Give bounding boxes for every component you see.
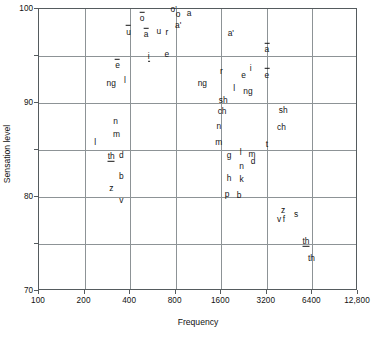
x-tick-label: 12,800 [344, 296, 370, 305]
data-point-label: v [277, 214, 281, 222]
data-point-label: th [108, 151, 115, 159]
x-tick-label: 1600 [211, 296, 230, 305]
x-tick-mark [220, 290, 221, 294]
y-tick-mark [34, 149, 38, 150]
data-point-label: a [144, 30, 149, 38]
data-point-label: d [119, 150, 124, 158]
x-tick-mark [175, 290, 176, 294]
data-point-label: e [115, 61, 120, 69]
data-point-label: s [294, 210, 298, 218]
data-point-label: a' [175, 21, 181, 29]
y-tick-mark [34, 8, 38, 9]
x-tick-label: 400 [122, 296, 136, 305]
data-point-label: n [113, 117, 118, 125]
y-tick-mark [34, 196, 38, 197]
data-point-label: m [113, 130, 120, 138]
y-tick-label: 70 [5, 286, 33, 295]
x-tick-mark [357, 290, 358, 294]
data-point-label: ng [243, 87, 252, 95]
x-gridline [176, 9, 177, 289]
data-point-label: l [94, 137, 96, 145]
data-point-label: l [233, 84, 235, 92]
y-gridline [39, 56, 356, 57]
data-point-label: n [216, 121, 221, 129]
x-tick-label: 3200 [257, 296, 276, 305]
data-point-label: e [165, 50, 170, 58]
data-point-label: d [251, 157, 256, 165]
data-point-label: l [124, 75, 126, 83]
data-point-label: ng [198, 79, 207, 87]
data-point-label: r [220, 67, 223, 75]
y-tick-mark [34, 55, 38, 56]
x-tick-label: 800 [168, 296, 182, 305]
data-point-label: b [237, 191, 242, 199]
y-gridline [39, 103, 356, 104]
y-axis-title: Sensation level [2, 119, 12, 189]
x-tick-label: 100 [31, 296, 45, 305]
x-tick-mark [38, 290, 39, 294]
data-point-label: l [240, 148, 242, 156]
data-point-label: sh [219, 96, 228, 104]
x-tick-mark [84, 290, 85, 294]
x-tick-mark [266, 290, 267, 294]
data-point-label: th [308, 254, 315, 262]
x-axis-title: Frequency [178, 317, 219, 327]
y-tick-label: 90 [5, 98, 33, 107]
data-point-label: ch [218, 107, 227, 115]
data-point-label: a [187, 9, 192, 17]
data-point-label: t [266, 140, 268, 148]
data-point-label: n [239, 162, 244, 170]
y-tick-label: 80 [5, 192, 33, 201]
y-gridline [39, 150, 356, 151]
y-gridline [39, 197, 356, 198]
x-gridline [85, 9, 86, 289]
data-point-label: v [119, 196, 123, 204]
y-tick-mark [34, 102, 38, 103]
x-tick-label: 6400 [302, 296, 321, 305]
y-tick-mark [34, 243, 38, 244]
data-point-label: b [119, 172, 124, 180]
x-tick-mark [129, 290, 130, 294]
data-point-label: sh [279, 105, 288, 113]
data-point-label: i [250, 64, 252, 72]
data-point-label: h [227, 174, 232, 182]
y-tick-mark [34, 290, 38, 291]
data-point-label: k [240, 175, 244, 183]
data-point-label: z [109, 183, 113, 191]
data-point-label: o [140, 14, 145, 22]
y-tick-label: 100 [5, 4, 33, 13]
figure-container: o'oaoa'uaura'aieeireenglnglngshshchnnchm… [0, 0, 371, 339]
data-point-label: ch [277, 122, 286, 130]
plot-area: o'oaoa'uaura'aieeireenglnglngshshchnnchm… [38, 8, 357, 290]
data-point-label: o [176, 9, 181, 17]
data-point-label: u [126, 27, 131, 35]
data-point-label: th [302, 237, 309, 245]
data-point-label: u [157, 26, 162, 34]
data-point-label: i [148, 52, 150, 60]
x-tick-mark [311, 290, 312, 294]
x-gridline [221, 9, 222, 289]
data-point-label: g [227, 150, 232, 158]
data-point-label: a' [228, 28, 234, 36]
x-gridline [312, 9, 313, 289]
x-tick-label: 200 [77, 296, 91, 305]
data-point-label: ng [107, 79, 116, 87]
data-point-label: p [225, 190, 230, 198]
data-point-label: a [265, 45, 270, 53]
data-point-label: r [166, 27, 169, 35]
data-point-label: e [241, 71, 246, 79]
data-point-label: f [283, 214, 285, 222]
data-point-label: e [265, 71, 270, 79]
data-point-label: m [215, 137, 222, 145]
x-gridline [130, 9, 131, 289]
